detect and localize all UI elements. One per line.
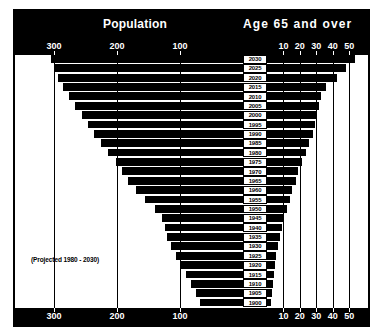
left-axis-tick-label: 200	[109, 41, 124, 51]
pyramid-row	[15, 271, 368, 279]
year-label: 1985	[243, 139, 267, 148]
population-bar	[136, 186, 243, 194]
pyramid-row	[15, 233, 368, 241]
pyramid-row	[15, 149, 368, 157]
age65-bar	[267, 289, 272, 297]
population-bar	[171, 242, 243, 250]
pyramid-row	[15, 111, 368, 119]
year-label: 1935	[243, 233, 267, 242]
plot-area: 2030202520202015201020052000199519901985…	[15, 55, 368, 308]
year-label: 1970	[243, 167, 267, 176]
age65-bar	[267, 102, 319, 110]
year-label: 2000	[243, 111, 267, 120]
age65-bar	[267, 177, 296, 185]
age65-bar	[267, 299, 271, 307]
year-label: 1960	[243, 186, 267, 195]
pyramid-row	[15, 121, 368, 129]
right-axis-tick-label: 10	[278, 311, 288, 321]
left-axis-tick-label: 300	[46, 41, 61, 51]
pyramid-row	[15, 224, 368, 232]
population-bar	[162, 214, 243, 222]
pyramid-row	[15, 186, 368, 194]
population-bar	[101, 139, 243, 147]
population-bar	[82, 111, 243, 119]
population-pyramid-figure: Population Age 65 and over 3002001001020…	[0, 0, 383, 336]
year-label: 1950	[243, 205, 267, 214]
pyramid-row	[15, 280, 368, 288]
age65-bar	[267, 139, 309, 147]
age65-bar	[267, 261, 275, 269]
year-label: 1905	[243, 289, 267, 298]
age65-bar	[267, 186, 292, 194]
left-axis-tick-label: 100	[172, 41, 187, 51]
year-label: 1980	[243, 148, 267, 157]
left-axis-tickmark	[117, 308, 118, 312]
population-bar	[167, 233, 243, 241]
left-axis-tickmark	[54, 308, 55, 312]
year-label: 1945	[243, 214, 267, 223]
age65-bar	[267, 167, 298, 175]
pyramid-row	[15, 139, 368, 147]
age65-bar	[267, 64, 346, 72]
right-axis-tick-label: 40	[328, 311, 338, 321]
age65-bar	[267, 74, 337, 82]
year-label: 2010	[243, 92, 267, 101]
age65-bar	[267, 271, 274, 279]
age65-bar	[267, 149, 306, 157]
pyramid-row	[15, 289, 368, 297]
year-label: 1920	[243, 261, 267, 270]
right-axis-tickmark	[333, 308, 334, 312]
age65-bar	[267, 92, 321, 100]
population-bar	[75, 102, 243, 110]
pyramid-row	[15, 196, 368, 204]
pyramid-row	[15, 64, 368, 72]
year-label: 1930	[243, 242, 267, 251]
year-label: 2025	[243, 64, 267, 73]
year-label: 1915	[243, 270, 267, 279]
projection-note: (Projected 1980 - 2030)	[31, 256, 99, 263]
population-title: Population	[103, 17, 167, 31]
age65-bar	[267, 280, 273, 288]
age65-bar	[267, 121, 315, 129]
right-axis-tick-label: 50	[344, 41, 354, 51]
year-label: 2015	[243, 83, 267, 92]
population-bar	[145, 196, 243, 204]
population-bar	[88, 121, 243, 129]
population-bar	[155, 205, 243, 213]
right-axis-tickmark	[349, 308, 350, 312]
year-label: 1995	[243, 120, 267, 129]
population-bar	[196, 289, 243, 297]
age65-bar	[267, 205, 287, 213]
age65-bar	[267, 214, 284, 222]
age-65-title: Age 65 and over	[243, 17, 352, 31]
pyramid-row	[15, 167, 368, 175]
age65-bar	[267, 111, 317, 119]
chart-frame: Population Age 65 and over 3002001001020…	[13, 9, 370, 327]
population-bar	[69, 92, 243, 100]
left-axis-tick-label: 200	[109, 311, 124, 321]
year-label: 1965	[243, 176, 267, 185]
year-label: 1990	[243, 130, 267, 139]
pyramid-row	[15, 214, 368, 222]
left-axis-tickmark	[180, 308, 181, 312]
age65-bar	[267, 252, 276, 260]
right-axis-tick-label: 30	[311, 41, 321, 51]
year-label: 1940	[243, 223, 267, 232]
age65-bar	[267, 83, 326, 91]
population-bar	[176, 252, 243, 260]
pyramid-row	[15, 158, 368, 166]
year-label: 2005	[243, 101, 267, 110]
pyramid-row	[15, 130, 368, 138]
population-bar	[128, 177, 243, 185]
population-bar	[186, 271, 243, 279]
right-axis-tick-label: 50	[344, 311, 354, 321]
year-label: 1910	[243, 279, 267, 288]
year-label: 1955	[243, 195, 267, 204]
year-label: 2020	[243, 73, 267, 82]
year-label: 1900	[243, 298, 267, 307]
right-axis-tickmark	[300, 308, 301, 312]
population-bar	[63, 83, 243, 91]
pyramid-row	[15, 55, 368, 63]
pyramid-row	[15, 92, 368, 100]
year-label: 1925	[243, 251, 267, 260]
